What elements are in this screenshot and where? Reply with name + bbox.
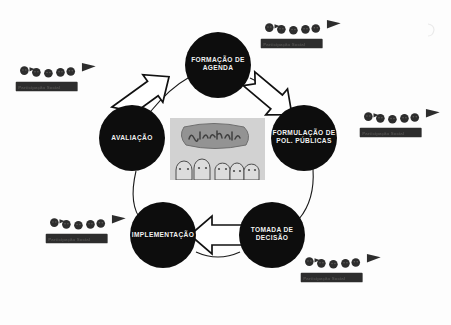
participation-banner-label: Participação Social xyxy=(18,85,60,90)
participation-banner-label: Participação Social xyxy=(303,276,345,281)
participation-banner-right[interactable]: Participação Social xyxy=(360,109,440,144)
participation-banner-label: Participação Social xyxy=(362,131,404,136)
policy-cycle-diagram: Formação de Agenda Formulação de Pol. Pú… xyxy=(0,0,451,325)
participation-banner-label: Participação Social xyxy=(48,237,90,242)
participation-banners-layer: Participação Social Participação Social … xyxy=(0,0,451,325)
participation-banner-top-right[interactable]: Participação Social xyxy=(261,20,341,55)
scan-artifact xyxy=(425,22,439,38)
participation-banner-bottom-right[interactable]: Participação Social xyxy=(301,254,381,289)
participation-banner-top-left[interactable]: Participação Social xyxy=(16,63,96,98)
participation-banner-bottom-left[interactable]: Participação Social xyxy=(46,215,126,250)
participation-banner-label: Participação Social xyxy=(263,42,305,47)
